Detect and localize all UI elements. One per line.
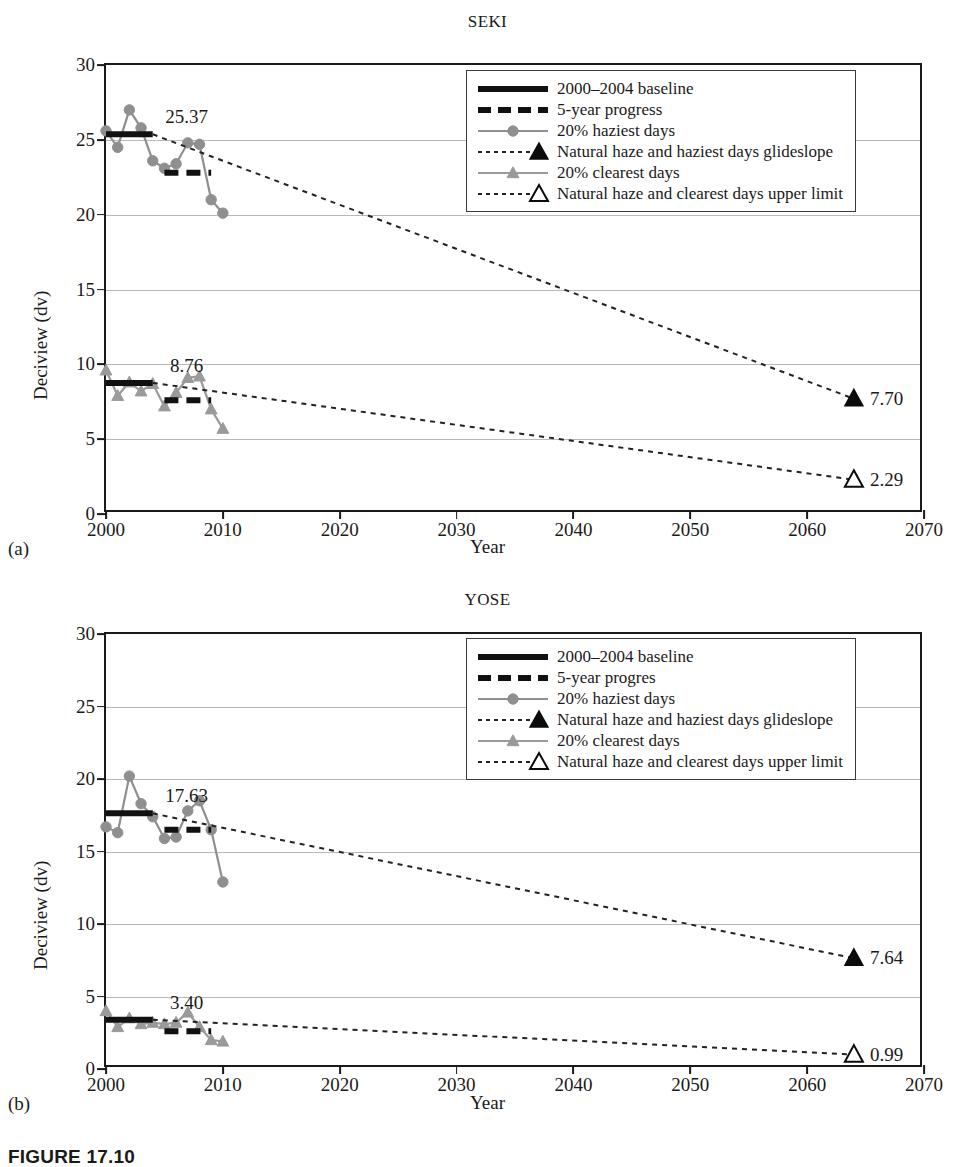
legend-key-dashed-thick-black <box>476 667 550 688</box>
legend-item: 2000–2004 baseline <box>476 646 843 667</box>
legend-key-dashed-thick-black <box>476 99 550 120</box>
figure-caption: FIGURE 17.10 <box>8 1146 135 1167</box>
y-tick-label: 15 <box>76 841 95 863</box>
y-tick-mark <box>97 438 106 440</box>
y-tick-mark <box>97 996 106 998</box>
legend-item: 20% clearest days <box>476 730 843 751</box>
y-tick-label: 30 <box>76 623 95 645</box>
legend-item: 5-year progres <box>476 667 843 688</box>
legend-label: 2000–2004 baseline <box>557 78 693 99</box>
y-axis-label-a: Deciview (dv) <box>30 291 52 400</box>
legend-key-dotted-open-triangle <box>476 183 550 204</box>
legend-label: 5-year progres <box>557 667 656 688</box>
y-tick-label: 25 <box>76 129 95 151</box>
y-tick-label: 20 <box>76 768 95 790</box>
y-tick-mark <box>97 214 106 216</box>
endpoint-value-label: 2.29 <box>870 469 903 491</box>
legend-item: Natural haze and clearest days upper lim… <box>476 183 843 204</box>
y-tick-mark <box>97 778 106 780</box>
x-axis-label-b: Year <box>0 1092 975 1114</box>
chart-title-a: SEKI <box>0 12 975 32</box>
baseline-value-label: 3.40 <box>170 992 203 1014</box>
legend-item: 20% haziest days <box>476 688 843 709</box>
legend-key-dotted-filled-triangle <box>476 141 550 162</box>
y-tick-mark <box>97 363 106 365</box>
legend-key-solid-thick-black <box>476 78 550 99</box>
legend-label: Natural haze and clearest days upper lim… <box>557 751 843 772</box>
chart-panel-seki: SEKI Deciview (dv) 051015202530200020102… <box>0 0 975 580</box>
panel-letter-a: (a) <box>8 538 29 560</box>
legend-key-line-triangle-gray <box>476 162 550 183</box>
y-tick-label: 30 <box>76 54 95 76</box>
chart-panel-yose: YOSE Deciview (dv) 051015202530200020102… <box>0 580 975 1110</box>
y-tick-mark <box>97 64 106 66</box>
legend-label: 20% haziest days <box>557 120 675 141</box>
legend-label: 5-year progress <box>557 99 662 120</box>
baseline-value-label: 25.37 <box>165 106 208 128</box>
y-tick-mark <box>97 923 106 925</box>
endpoint-value-label: 0.99 <box>870 1044 903 1066</box>
y-tick-mark <box>97 139 106 141</box>
legend-item: Natural haze and clearest days upper lim… <box>476 751 843 772</box>
y-tick-label: 20 <box>76 204 95 226</box>
legend-label: 20% clearest days <box>557 162 680 183</box>
y-tick-label: 5 <box>86 428 96 450</box>
legend-key-line-circle-gray <box>476 688 550 709</box>
legend-key-line-triangle-gray <box>476 730 550 751</box>
legend-item: Natural haze and haziest days glideslope <box>476 709 843 730</box>
y-tick-mark <box>97 706 106 708</box>
legend-label: Natural haze and haziest days glideslope <box>557 709 833 730</box>
legend-key-dotted-filled-triangle <box>476 709 550 730</box>
legend-label: Natural haze and haziest days glideslope <box>557 141 833 162</box>
legend-label: 20% haziest days <box>557 688 675 709</box>
legend-item: 20% clearest days <box>476 162 843 183</box>
legend-key-dotted-open-triangle <box>476 751 550 772</box>
y-tick-label: 10 <box>76 913 95 935</box>
legend-label: 20% clearest days <box>557 730 680 751</box>
legend-b: 2000–2004 baseline5-year progres20% hazi… <box>466 638 856 780</box>
legend-item: 2000–2004 baseline <box>476 78 843 99</box>
y-tick-label: 5 <box>86 986 96 1008</box>
endpoint-value-label: 7.64 <box>870 947 903 969</box>
y-tick-label: 15 <box>76 279 95 301</box>
y-tick-mark <box>97 851 106 853</box>
legend-label: 2000–2004 baseline <box>557 646 693 667</box>
y-tick-mark <box>97 289 106 291</box>
y-tick-label: 10 <box>76 353 95 375</box>
legend-label: Natural haze and clearest days upper lim… <box>557 183 843 204</box>
legend-item: 5-year progress <box>476 99 843 120</box>
y-tick-mark <box>97 633 106 635</box>
panel-letter-b: (b) <box>8 1093 30 1115</box>
chart-title-b: YOSE <box>0 590 975 610</box>
baseline-value-label: 17.63 <box>165 785 208 807</box>
baseline-value-label: 8.76 <box>170 355 203 377</box>
y-axis-label-b: Deciview (dv) <box>30 861 52 970</box>
x-axis-label-a: Year <box>0 536 975 558</box>
legend-key-solid-thick-black <box>476 646 550 667</box>
endpoint-value-label: 7.70 <box>870 388 903 410</box>
legend-item: 20% haziest days <box>476 120 843 141</box>
legend-a: 2000–2004 baseline5-year progress20% haz… <box>466 70 856 212</box>
y-tick-label: 25 <box>76 696 95 718</box>
legend-item: Natural haze and haziest days glideslope <box>476 141 843 162</box>
legend-key-line-circle-gray <box>476 120 550 141</box>
